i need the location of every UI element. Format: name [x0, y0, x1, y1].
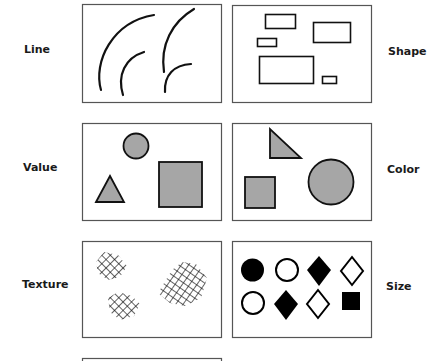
panel-color	[233, 124, 372, 221]
panel-value	[83, 124, 222, 221]
panel-texture	[83, 242, 222, 338]
filled-square-icon	[342, 292, 360, 310]
panel-frame	[233, 6, 372, 103]
panel-shape	[233, 6, 372, 103]
panel-line	[83, 5, 222, 103]
filled-circle-icon	[241, 259, 264, 282]
circle-shape	[124, 134, 149, 159]
circle-shape	[309, 160, 354, 205]
square-shape	[245, 177, 275, 208]
square-shape	[159, 162, 202, 207]
panel-size	[233, 242, 372, 338]
panel-frame	[233, 242, 372, 338]
